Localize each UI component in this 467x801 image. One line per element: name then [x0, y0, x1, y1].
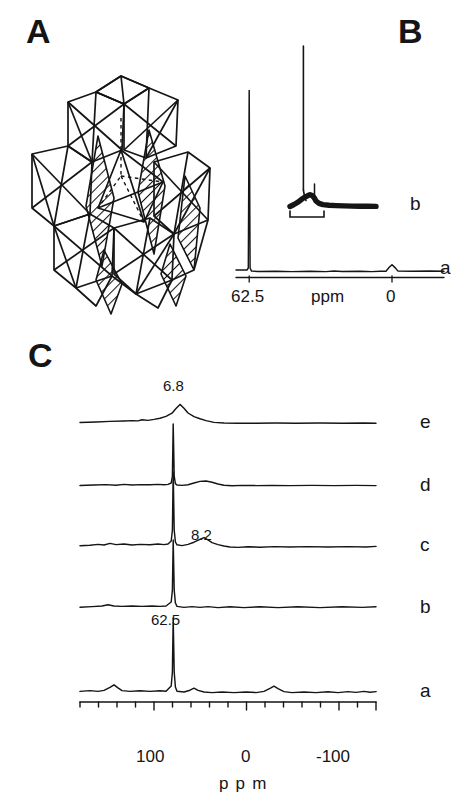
panel-b-letter: B: [398, 14, 423, 48]
panel-c-letter: C: [28, 338, 53, 372]
figure-canvas: A: [0, 0, 467, 801]
panel-b-spectrum: [230, 44, 450, 284]
panel-c-spectra-stack: [76, 372, 406, 740]
panel-c-annotation-62-5: 62.5: [151, 612, 180, 627]
panel-c-trace-label-e: e: [420, 412, 431, 431]
panel-c-axis-tick-minus-100: -100: [316, 748, 350, 765]
panel-a-letter: A: [26, 14, 51, 48]
panel-b-axis-unit: ppm: [311, 288, 344, 305]
panel-c-trace-label-b: b: [420, 597, 431, 616]
panel-a-structure-diagram: [18, 58, 223, 308]
panel-b-trace-label-a: a: [440, 258, 451, 277]
panel-c-trace-label-d: d: [420, 475, 431, 494]
panel-c-trace-label-a: a: [420, 681, 431, 700]
panel-b-trace-label-b: b: [410, 194, 421, 213]
panel-c-axis-tick-100: 100: [136, 748, 164, 765]
panel-c-axis-unit: p p m: [219, 775, 268, 792]
panel-c-annotation-6-8: 6.8: [163, 378, 184, 393]
panel-b-axis-tick-left: 62.5: [231, 288, 264, 305]
panel-b-axis-tick-right: 0: [386, 288, 395, 305]
panel-c-annotation-8-2: 8.2: [191, 527, 212, 542]
panel-c-axis-tick-0: 0: [241, 748, 250, 765]
panel-c-trace-label-c: c: [420, 535, 430, 554]
